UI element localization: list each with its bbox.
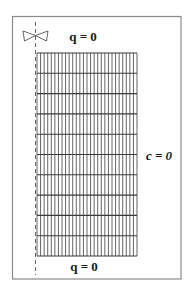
bottom-boundary-label: q = 0 xyxy=(70,260,98,273)
boundary-mesh-figure: q = 0 q = 0 c = 0 xyxy=(0,0,188,294)
right-boundary-label: c = 0 xyxy=(146,149,172,162)
mesh-grid xyxy=(37,53,137,256)
top-boundary-label: q = 0 xyxy=(69,30,97,43)
